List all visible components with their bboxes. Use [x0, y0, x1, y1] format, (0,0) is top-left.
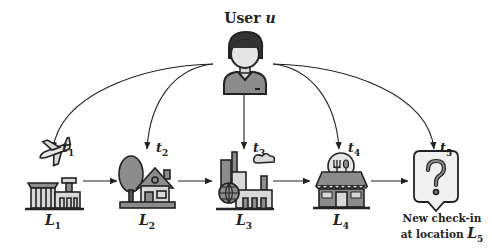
location-label-L4: L4 — [321, 212, 361, 231]
location-label-L3: L3 — [224, 212, 264, 231]
arrow-t1 — [53, 64, 213, 149]
new-checkin-line1: New check-in — [392, 211, 492, 226]
house-icon — [119, 156, 175, 208]
timestamp-t2: t2 — [156, 140, 168, 158]
timestamp-t1: t1 — [62, 140, 74, 158]
city-factory-icon — [216, 152, 275, 209]
timestamp-t4: t4 — [348, 140, 360, 158]
arrow-t4 — [273, 64, 339, 149]
airport-icon — [25, 133, 84, 209]
location-label-L1: L1 — [33, 212, 73, 231]
user-variable: u — [266, 10, 276, 26]
user-title: User u — [205, 10, 295, 26]
timestamp-t5: t5 — [440, 140, 452, 158]
location-label-L2: L2 — [127, 212, 167, 231]
restaurant-icon — [313, 153, 370, 208]
arrow-t5 — [273, 64, 434, 149]
new-checkin-label: New check-in at location L5 — [392, 211, 492, 247]
new-checkin-line2: at location L5 — [392, 226, 492, 247]
user-avatar-icon — [224, 32, 266, 94]
question-bubble-icon — [414, 151, 458, 211]
user-label: User — [224, 10, 260, 26]
arrow-t2 — [147, 64, 213, 149]
timestamp-t3: t3 — [253, 140, 265, 158]
